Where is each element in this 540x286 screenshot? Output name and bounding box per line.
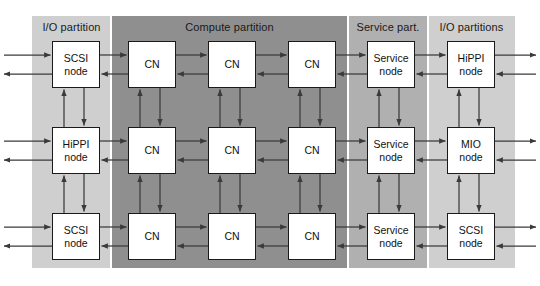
node-label-primary: SCSI <box>459 224 484 237</box>
node-label-primary: CN <box>304 58 319 71</box>
node-n-r3-c2[interactable]: CN <box>128 213 176 260</box>
node-label-secondary: node <box>379 237 402 250</box>
partition-title-compute: Compute partition <box>111 21 348 33</box>
node-label-primary: CN <box>304 144 319 157</box>
node-label-secondary: node <box>64 65 87 78</box>
node-label-primary: CN <box>144 58 159 71</box>
node-n-r3-c1[interactable]: SCSInode <box>52 213 100 260</box>
node-n-r2-c3[interactable]: CN <box>208 127 256 174</box>
node-label-primary: HiPPI <box>458 52 485 65</box>
node-label-primary: CN <box>144 144 159 157</box>
partition-title-io-left: I/O partition <box>32 21 111 33</box>
node-n-r2-c6[interactable]: MIOnode <box>447 127 495 174</box>
node-n-r1-c6[interactable]: HiPPInode <box>447 41 495 88</box>
partition-title-io-right: I/O partitions <box>428 21 515 33</box>
node-label-primary: Service <box>373 138 408 151</box>
node-label-primary: SCSI <box>64 52 89 65</box>
node-n-r3-c4[interactable]: CN <box>288 213 336 260</box>
node-label-primary: CN <box>224 144 239 157</box>
node-n-r2-c2[interactable]: CN <box>128 127 176 174</box>
partition-title-service: Service part. <box>348 21 428 33</box>
node-label-secondary: node <box>379 151 402 164</box>
node-n-r1-c1[interactable]: SCSInode <box>52 41 100 88</box>
node-n-r2-c1[interactable]: HiPPInode <box>52 127 100 174</box>
node-label-primary: MIO <box>461 138 481 151</box>
node-label-primary: CN <box>224 58 239 71</box>
node-label-secondary: node <box>64 237 87 250</box>
node-label-secondary: node <box>64 151 87 164</box>
node-n-r2-c4[interactable]: CN <box>288 127 336 174</box>
node-label-primary: CN <box>224 230 239 243</box>
node-n-r1-c5[interactable]: Servicenode <box>367 41 415 88</box>
node-label-primary: Service <box>373 224 408 237</box>
node-label-primary: Service <box>373 52 408 65</box>
diagram-canvas: I/O partitionCompute partitionService pa… <box>0 0 540 286</box>
node-n-r1-c4[interactable]: CN <box>288 41 336 88</box>
node-label-primary: SCSI <box>64 224 89 237</box>
node-label-secondary: node <box>459 65 482 78</box>
node-label-primary: CN <box>304 230 319 243</box>
node-label-secondary: node <box>459 151 482 164</box>
node-label-primary: CN <box>144 230 159 243</box>
node-label-secondary: node <box>379 65 402 78</box>
node-label-secondary: node <box>459 237 482 250</box>
node-n-r3-c6[interactable]: SCSInode <box>447 213 495 260</box>
node-label-primary: HiPPI <box>63 138 90 151</box>
node-n-r1-c3[interactable]: CN <box>208 41 256 88</box>
node-n-r1-c2[interactable]: CN <box>128 41 176 88</box>
node-n-r3-c3[interactable]: CN <box>208 213 256 260</box>
node-n-r2-c5[interactable]: Servicenode <box>367 127 415 174</box>
partition-backgrounds <box>32 16 515 268</box>
node-n-r3-c5[interactable]: Servicenode <box>367 213 415 260</box>
